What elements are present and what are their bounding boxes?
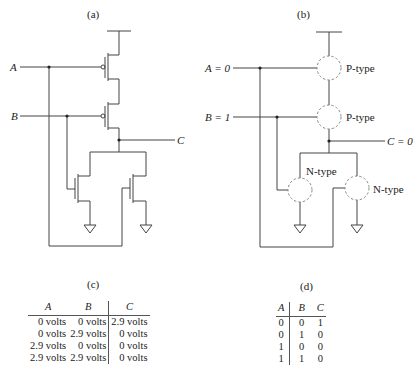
header-c: C <box>109 301 150 316</box>
input-a-value-label: A = 0 <box>205 63 230 74</box>
cell: 0 volts <box>28 328 68 340</box>
n-type-right-icon <box>345 176 369 200</box>
table-row: 2.9 volts 2.9 volts 0 volts <box>28 352 150 364</box>
table-row: 0 0 1 <box>276 317 326 330</box>
output-c-value-label: C = 0 <box>387 136 413 147</box>
cell: 0 volts <box>109 352 150 364</box>
cell: 0 volts <box>68 340 109 352</box>
table-header-row: A B C <box>276 302 326 317</box>
panel-b-transistor-placeholders <box>288 56 369 202</box>
cell: 2.9 volts <box>28 340 68 352</box>
cell: 1 <box>290 329 311 341</box>
table-row: 1 0 0 <box>276 341 326 353</box>
cell: 0 volts <box>28 316 68 329</box>
boolean-truth-table: A B C 0 0 1 0 1 0 1 0 0 1 1 0 <box>276 302 326 365</box>
cell: 0 <box>311 329 326 341</box>
cell: 0 volts <box>109 328 150 340</box>
cell: 0 <box>290 341 311 353</box>
cell: 1 <box>311 317 326 330</box>
ground-icon <box>294 225 306 233</box>
cell: 2.9 volts <box>68 328 109 340</box>
header-a: A <box>276 302 290 317</box>
cell: 0 <box>276 329 290 341</box>
cell: 0 <box>311 353 326 365</box>
p-type-bottom-label: P-type <box>346 112 375 123</box>
p-type-top-icon <box>317 56 341 80</box>
header-b: B <box>68 301 109 316</box>
table-row: 0 1 0 <box>276 329 326 341</box>
cell: 2.9 volts <box>28 352 68 364</box>
cell: 0 volts <box>68 316 109 329</box>
table-header-row: A B C <box>28 301 150 316</box>
input-b-value-label: B = 1 <box>205 112 230 123</box>
voltage-truth-table: A B C 0 volts 0 volts 2.9 volts 0 volts … <box>28 301 150 364</box>
cell: 2.9 volts <box>109 316 150 329</box>
table-row: 0 volts 0 volts 2.9 volts <box>28 316 150 329</box>
table-row: 2.9 volts 0 volts 0 volts <box>28 340 150 352</box>
cell: 1 <box>276 341 290 353</box>
caption-d: (d) <box>300 281 313 292</box>
input-a-label: A <box>10 62 17 73</box>
panel-b-junctions <box>258 66 330 142</box>
input-b-label: B <box>11 111 18 122</box>
cell: 1 <box>290 353 311 365</box>
nmos-left-icon <box>67 174 90 203</box>
output-c-label: C <box>177 135 184 146</box>
ground-icon <box>140 225 152 233</box>
ground-icon <box>84 225 96 233</box>
cell: 1 <box>276 353 290 365</box>
p-type-bottom-icon <box>317 105 341 129</box>
cell: 0 volts <box>109 340 150 352</box>
caption-b: (b) <box>297 9 310 20</box>
cell: 0 <box>290 317 311 330</box>
p-type-top-label: P-type <box>346 63 375 74</box>
header-a: A <box>28 301 68 316</box>
header-c: C <box>311 302 326 317</box>
ground-icon <box>351 225 363 233</box>
panel-a-circuit <box>20 31 175 246</box>
table-row: 1 1 0 <box>276 353 326 365</box>
cell: 0 <box>276 317 290 330</box>
nmos-right-icon <box>122 174 146 203</box>
n-type-right-label: N-type <box>373 184 404 195</box>
caption-a: (a) <box>87 9 99 20</box>
table-row: 0 volts 2.9 volts 0 volts <box>28 328 150 340</box>
nor-gate-circuits <box>0 0 419 260</box>
cell: 0 <box>311 341 326 353</box>
pmos-bottom-icon <box>101 102 119 130</box>
n-type-left-icon <box>288 178 312 202</box>
header-b: B <box>290 302 311 317</box>
n-type-left-label: N-type <box>306 166 337 177</box>
pmos-top-icon <box>101 53 119 81</box>
caption-c: (c) <box>87 279 99 290</box>
cell: 2.9 volts <box>68 352 109 364</box>
